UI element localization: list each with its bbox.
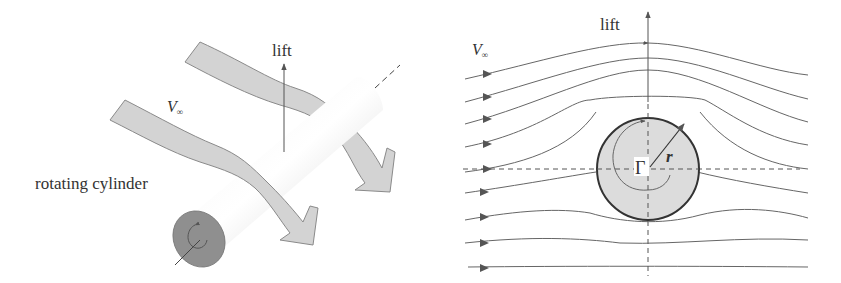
streamline: [465, 43, 808, 79]
streamline: [700, 112, 808, 169]
velocity-label: V∞: [167, 98, 183, 117]
streamline: [465, 172, 596, 193]
streamline: [465, 70, 808, 124]
flow-arrowheads: [480, 70, 492, 272]
streamline: [465, 238, 808, 243]
streamline: [697, 172, 808, 193]
left-panel-3d-cylinder: lift V∞ rotating cylinder: [35, 41, 400, 277]
circulation-label: Γ: [635, 158, 645, 178]
streamline: [468, 266, 808, 267]
lift-label: lift: [272, 41, 292, 60]
velocity-label-right: V∞: [472, 41, 488, 60]
axis-dash: [375, 65, 400, 88]
magnus-effect-diagram: lift V∞ rotating cylinder: [0, 0, 841, 283]
cylinder-label: rotating cylinder: [35, 174, 148, 193]
radius-label: r: [666, 147, 673, 166]
lift-label-right: lift: [600, 15, 620, 34]
